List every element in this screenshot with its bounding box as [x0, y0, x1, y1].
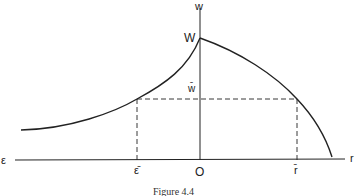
r-bar-label: r̄	[294, 165, 298, 176]
x-axis-left-label: ε	[1, 155, 6, 166]
right-curve	[200, 38, 332, 157]
w-bar-label: w̄	[188, 84, 195, 94]
x-axis-right-label: r	[350, 153, 354, 164]
x-axis	[15, 159, 345, 160]
origin-label: O	[195, 166, 204, 178]
peak-label: W	[184, 32, 195, 44]
y-axis-label: w	[195, 1, 203, 12]
epsilon-bar-label: ε̄	[134, 165, 139, 176]
left-curve	[21, 38, 200, 130]
figure-caption: Figure 4.4	[153, 186, 194, 196]
diagram-canvas	[0, 0, 355, 196]
